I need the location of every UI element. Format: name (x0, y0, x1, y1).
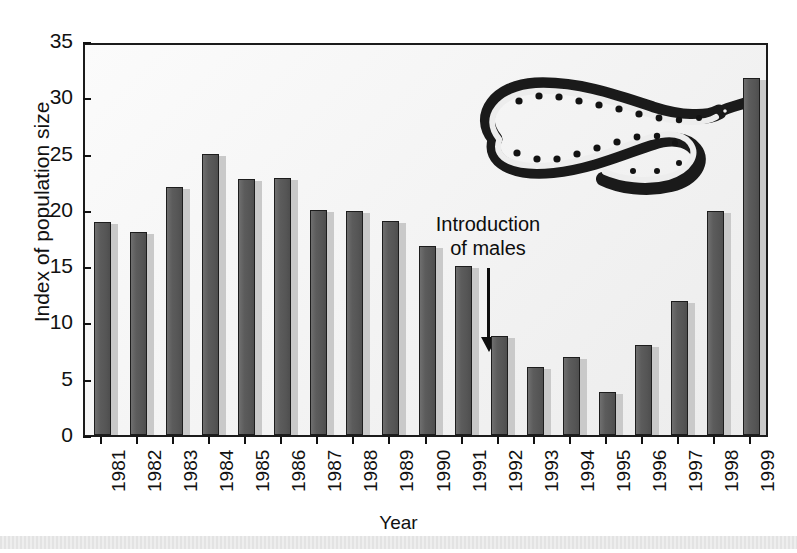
x-tick (100, 437, 102, 444)
x-tick (605, 437, 607, 444)
bar-1992[interactable] (491, 336, 508, 435)
x-tick-label-1989: 1989 (396, 450, 418, 492)
x-tick-label-1983: 1983 (180, 450, 202, 492)
x-tick (388, 437, 390, 444)
y-tick (83, 98, 91, 100)
x-tick (641, 437, 643, 444)
y-tick-label: 0 (27, 423, 73, 447)
x-tick (425, 437, 427, 444)
x-tick-label-1987: 1987 (324, 450, 346, 492)
annotation-line-1: Introduction (403, 213, 573, 237)
x-tick (208, 437, 210, 444)
x-tick (172, 437, 174, 444)
footer-band (0, 536, 797, 549)
x-tick (677, 437, 679, 444)
x-tick-label-1998: 1998 (721, 450, 743, 492)
annotation-arrow-shaft (487, 268, 490, 340)
y-tick-label: 15 (27, 254, 73, 278)
bar-1995[interactable] (599, 392, 616, 435)
x-tick (136, 437, 138, 444)
x-tick (461, 437, 463, 444)
bar-1997[interactable] (671, 301, 688, 435)
y-tick (83, 155, 91, 157)
y-tick (83, 436, 91, 438)
x-tick-label-1995: 1995 (613, 450, 635, 492)
bar-1999[interactable] (743, 78, 760, 435)
bar-1991[interactable] (455, 266, 472, 435)
x-tick-label-1991: 1991 (469, 450, 491, 492)
x-tick (713, 437, 715, 444)
bar-1987[interactable] (310, 210, 327, 435)
bar-1990[interactable] (419, 246, 436, 435)
x-tick-label-1986: 1986 (288, 450, 310, 492)
chart-figure: Index of population size (0, 0, 797, 553)
x-tick (497, 437, 499, 444)
x-tick-label-1990: 1990 (433, 450, 455, 492)
plot-area: Introduction of males (83, 43, 768, 437)
bar-1983[interactable] (166, 187, 183, 435)
y-tick (83, 211, 91, 213)
y-tick-label: 10 (27, 310, 73, 334)
x-tick (244, 437, 246, 444)
bar-1998[interactable] (707, 211, 724, 435)
x-tick-label-1981: 1981 (108, 450, 130, 492)
bar-1982[interactable] (130, 232, 147, 435)
x-tick-label-1992: 1992 (505, 450, 527, 492)
bar-1996[interactable] (635, 345, 652, 435)
x-tick-label-1994: 1994 (577, 450, 599, 492)
x-tick-label-1999: 1999 (757, 450, 779, 492)
bar-1994[interactable] (563, 357, 580, 435)
bar-1989[interactable] (382, 221, 399, 435)
y-tick-label: 20 (27, 198, 73, 222)
x-tick (569, 437, 571, 444)
y-tick-label: 25 (27, 142, 73, 166)
bar-1993[interactable] (527, 367, 544, 435)
x-tick (352, 437, 354, 444)
x-tick-label-1997: 1997 (685, 450, 707, 492)
bar-1986[interactable] (274, 178, 291, 435)
x-axis-title: Year (0, 512, 797, 534)
x-tick-label-1996: 1996 (649, 450, 671, 492)
y-tick-label: 5 (27, 367, 73, 391)
x-tick-label-1985: 1985 (252, 450, 274, 492)
x-tick (533, 437, 535, 444)
x-tick-label-1993: 1993 (541, 450, 563, 492)
snake-illustration (457, 67, 747, 202)
y-tick (83, 380, 91, 382)
y-tick (83, 42, 91, 44)
y-tick-label: 35 (27, 29, 73, 53)
x-tick (749, 437, 751, 444)
x-tick-label-1988: 1988 (360, 450, 382, 492)
bar-1981[interactable] (94, 222, 111, 435)
bar-1984[interactable] (202, 154, 219, 435)
bar-1985[interactable] (238, 179, 255, 435)
y-tick-label: 30 (27, 85, 73, 109)
bar-1988[interactable] (346, 211, 363, 435)
y-tick (83, 267, 91, 269)
x-tick-label-1984: 1984 (216, 450, 238, 492)
y-tick (83, 323, 91, 325)
x-tick (280, 437, 282, 444)
x-tick-label-1982: 1982 (144, 450, 166, 492)
x-tick (316, 437, 318, 444)
